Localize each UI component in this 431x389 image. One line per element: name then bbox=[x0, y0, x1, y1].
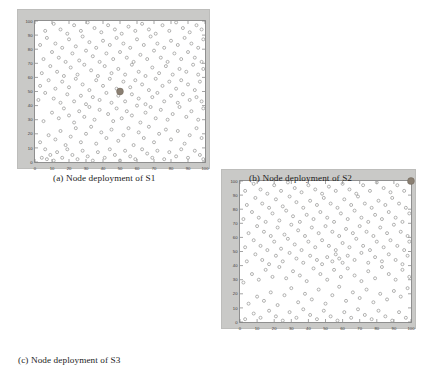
caption-s2: (b) Node deployment of S2 bbox=[249, 173, 352, 183]
svg-text:100: 100 bbox=[202, 166, 210, 171]
svg-text:100: 100 bbox=[231, 179, 239, 184]
axes-s2: 0102030405060708090100010203040506070809… bbox=[239, 180, 412, 323]
svg-text:90: 90 bbox=[186, 166, 191, 171]
svg-text:40: 40 bbox=[28, 103, 33, 108]
svg-text:70: 70 bbox=[357, 326, 362, 331]
panel-s1: 0102030405060708090100010203040506070809… bbox=[17, 9, 210, 169]
svg-text:60: 60 bbox=[233, 235, 238, 240]
svg-text:20: 20 bbox=[233, 291, 238, 296]
svg-text:80: 80 bbox=[233, 207, 238, 212]
svg-text:0: 0 bbox=[30, 160, 33, 165]
svg-text:30: 30 bbox=[233, 277, 238, 282]
svg-text:60: 60 bbox=[340, 326, 345, 331]
svg-text:70: 70 bbox=[233, 221, 238, 226]
figure-sheet: 0102030405060708090100010203040506070809… bbox=[0, 0, 431, 389]
svg-text:70: 70 bbox=[28, 61, 33, 66]
scatter-plot-s2: 0102030405060708090100010203040506070809… bbox=[240, 181, 411, 322]
svg-text:10: 10 bbox=[28, 146, 33, 151]
svg-text:30: 30 bbox=[289, 326, 294, 331]
svg-text:50: 50 bbox=[28, 89, 33, 94]
svg-text:10: 10 bbox=[233, 306, 238, 311]
svg-text:60: 60 bbox=[135, 166, 140, 171]
svg-text:10: 10 bbox=[50, 166, 55, 171]
svg-text:10: 10 bbox=[255, 326, 260, 331]
svg-text:20: 20 bbox=[28, 131, 33, 136]
svg-text:80: 80 bbox=[28, 47, 33, 52]
svg-text:100: 100 bbox=[408, 326, 416, 331]
svg-text:60: 60 bbox=[28, 75, 33, 80]
svg-text:70: 70 bbox=[152, 166, 157, 171]
caption-s3: (c) Node deployment of S3 bbox=[18, 355, 121, 365]
scatter-plot-s1: 0102030405060708090100010203040506070809… bbox=[35, 21, 205, 162]
svg-text:100: 100 bbox=[26, 19, 34, 24]
svg-text:40: 40 bbox=[233, 263, 238, 268]
panel-s2: 0102030405060708090100010203040506070809… bbox=[221, 169, 416, 329]
svg-text:30: 30 bbox=[28, 117, 33, 122]
svg-text:40: 40 bbox=[306, 326, 311, 331]
axes-s1: 0102030405060708090100010203040506070809… bbox=[34, 20, 206, 163]
svg-text:0: 0 bbox=[239, 326, 242, 331]
svg-text:90: 90 bbox=[28, 33, 33, 38]
svg-text:20: 20 bbox=[67, 166, 72, 171]
svg-text:80: 80 bbox=[169, 166, 174, 171]
svg-text:0: 0 bbox=[34, 166, 37, 171]
svg-text:50: 50 bbox=[233, 249, 238, 254]
svg-text:20: 20 bbox=[272, 326, 277, 331]
svg-text:40: 40 bbox=[101, 166, 106, 171]
svg-text:90: 90 bbox=[392, 326, 397, 331]
svg-text:80: 80 bbox=[374, 326, 379, 331]
svg-text:90: 90 bbox=[233, 193, 238, 198]
svg-text:0: 0 bbox=[235, 320, 238, 325]
svg-text:30: 30 bbox=[84, 166, 89, 171]
svg-text:50: 50 bbox=[323, 326, 328, 331]
caption-s1: (a) Node deployment of S1 bbox=[53, 173, 156, 183]
svg-text:50: 50 bbox=[118, 166, 123, 171]
